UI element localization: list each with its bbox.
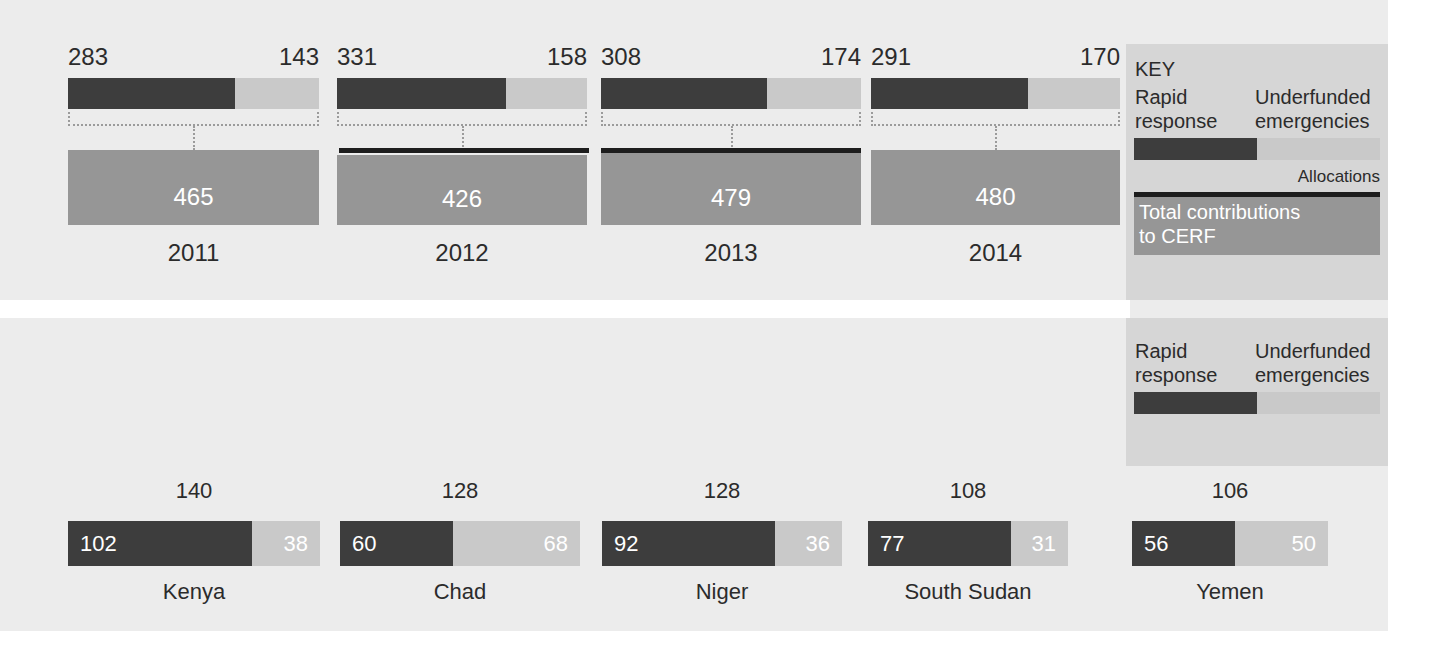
year-group-2014: 291 170 480 2014 [871,45,1120,265]
page-bottom-divider [0,631,1453,663]
country-group-kenya: 140 102 38 Kenya [68,480,320,595]
key-label-underfunded-emergencies: Underfunded emergencies [1255,86,1371,133]
country-bar-rapid-segment-kenya: 102 [68,521,252,566]
key2-swatch-bar [1134,392,1380,414]
country-label-south-sudan: South Sudan [868,581,1068,603]
underfunded-value-2013: 174 [821,45,861,69]
country-total-chad: 128 [340,480,580,502]
key-swatch-underfunded [1257,138,1380,160]
total-contributions-block-2013: 479 [601,153,861,225]
total-contributions-rule-2012 [339,148,589,153]
country-rapid-value-yemen: 56 [1132,533,1180,555]
country-bar-underfunded-segment-yemen: 50 [1235,521,1328,566]
total-contributions-block-2011: 465 [68,150,319,225]
country-bar-rapid-segment-yemen: 56 [1132,521,1235,566]
allocation-bar-underfunded-segment-2013 [767,78,861,109]
country-underfunded-value-yemen: 50 [1280,533,1328,555]
allocation-bar-rapid-segment-2013 [601,78,767,109]
country-label-yemen: Yemen [1132,581,1328,603]
total-contributions-value-2013: 479 [711,186,751,210]
underfunded-value-2012: 158 [547,45,587,69]
country-bar-chad: 60 68 [340,521,580,566]
country-underfunded-value-chad: 68 [532,533,580,555]
key-title: KEY [1135,58,1175,82]
country-underfunded-value-south-sudan: 31 [1020,533,1068,555]
country-underfunded-value-niger: 36 [794,533,842,555]
country-total-south-sudan: 108 [868,480,1068,502]
total-contributions-value-2014: 480 [975,185,1015,209]
underfunded-value-2014: 170 [1080,45,1120,69]
allocation-bar-rapid-segment-2014 [871,78,1028,109]
year-label-2013: 2013 [601,241,861,265]
total-contributions-value-2012: 426 [442,187,482,211]
year-group-2013: 308 174 479 2013 [601,45,861,265]
year-label-2011: 2011 [68,241,319,265]
country-bar-underfunded-segment-chad: 68 [453,521,580,566]
key-label-total-contributions: Total contributions to CERF [1139,201,1300,248]
rapid-response-value-2013: 308 [601,45,641,69]
country-total-niger: 128 [602,480,842,502]
country-bar-south-sudan: 77 31 [868,521,1068,566]
key-label-rapid-response: Rapid response [1135,86,1217,133]
rapid-response-value-2014: 291 [871,45,911,69]
country-bar-rapid-segment-south-sudan: 77 [868,521,1011,566]
allocation-bar-underfunded-segment-2011 [235,78,319,109]
infographic-canvas: 283 143 465 2011 331 158 426 2012 308 [0,0,1453,663]
country-total-yemen: 106 [1132,480,1328,502]
drop-connector-2012 [462,126,464,150]
country-group-niger: 128 92 36 Niger [602,480,842,595]
allocation-bar-2014 [871,78,1120,109]
allocation-bar-2013 [601,78,861,109]
key-label-allocations: Allocations [1134,168,1380,185]
key-panel-secondary: Rapid response Underfunded emergencies [1126,318,1388,466]
rapid-response-value-2012: 331 [337,45,377,69]
country-bar-rapid-segment-niger: 92 [602,521,775,566]
bracket-connector-2013 [601,112,861,126]
section-divider [0,300,1130,318]
country-underfunded-value-kenya: 38 [272,533,320,555]
country-label-kenya: Kenya [68,581,320,603]
total-contributions-block-2012: 426 [337,155,587,225]
allocation-bar-2011 [68,78,319,109]
bracket-connector-2014 [871,112,1120,126]
total-contributions-value-2011: 465 [173,185,213,209]
key2-label-underfunded-emergencies: Underfunded emergencies [1255,340,1371,387]
country-bar-underfunded-segment-kenya: 38 [252,521,320,566]
country-rapid-value-kenya: 102 [68,533,129,555]
year-group-2012: 331 158 426 2012 [337,45,587,265]
country-rapid-value-niger: 92 [602,533,650,555]
country-bar-rapid-segment-chad: 60 [340,521,453,566]
underfunded-value-2011: 143 [279,45,319,69]
country-total-kenya: 140 [68,480,320,502]
key2-label-rapid-response: Rapid response [1135,340,1217,387]
country-label-chad: Chad [340,581,580,603]
allocation-bar-rapid-segment-2012 [337,78,506,109]
bracket-connector-2012 [337,112,587,126]
key-swatch-bar [1134,138,1380,160]
drop-connector-2014 [995,126,997,150]
total-contributions-block-2014: 480 [871,150,1120,225]
bracket-connector-2011 [68,112,319,126]
year-label-2014: 2014 [871,241,1120,265]
country-group-yemen: 106 56 50 Yemen [1132,480,1328,595]
allocation-bar-2012 [337,78,587,109]
year-group-2011: 283 143 465 2011 [68,45,319,265]
country-rapid-value-south-sudan: 77 [868,533,916,555]
country-bar-kenya: 102 38 [68,521,320,566]
country-rapid-value-chad: 60 [340,533,388,555]
allocation-bar-underfunded-segment-2012 [506,78,587,109]
country-bar-underfunded-segment-south-sudan: 31 [1011,521,1068,566]
rapid-response-value-2011: 283 [68,45,108,69]
country-label-niger: Niger [602,581,842,603]
country-bar-underfunded-segment-niger: 36 [775,521,842,566]
key2-swatch-rapid-response [1134,392,1257,414]
allocation-bar-rapid-segment-2011 [68,78,235,109]
country-bar-niger: 92 36 [602,521,842,566]
country-bar-yemen: 56 50 [1132,521,1328,566]
drop-connector-2013 [731,126,733,150]
country-group-chad: 128 60 68 Chad [340,480,580,595]
key2-swatch-underfunded [1257,392,1380,414]
key-panel-primary: KEY Rapid response Underfunded emergenci… [1126,44,1388,300]
allocation-bar-underfunded-segment-2014 [1028,78,1120,109]
year-label-2012: 2012 [337,241,587,265]
